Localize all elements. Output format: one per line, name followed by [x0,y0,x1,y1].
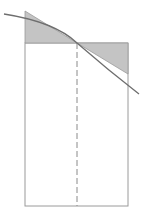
diagram-canvas [0,0,146,224]
right-shaded-triangle [77,43,128,74]
